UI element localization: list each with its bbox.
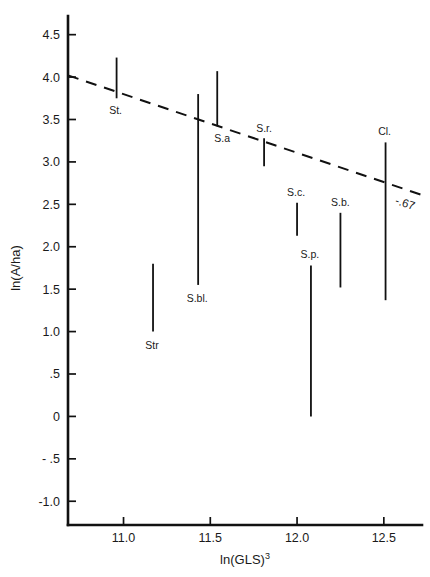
trendline-group: -.67 — [68, 75, 422, 212]
y-tick-label: 3.5 — [43, 113, 60, 127]
data-point-label: S.bl. — [187, 292, 208, 304]
y-tick-label: 0 — [53, 410, 60, 424]
y-tick-label: 4.5 — [43, 28, 60, 42]
data-point-label: Cl. — [378, 125, 391, 137]
data-range-bars: St.StrS.bl.S.aS.r.S.c.S.p.S.b.Cl. — [109, 58, 391, 417]
y-tick-label: 3.0 — [43, 155, 60, 169]
x-axis-ticks: 11.011.512.012.5 — [112, 517, 396, 545]
trendline-slope-annotation: -.67 — [394, 194, 417, 212]
x-tick-label: 11.0 — [112, 531, 135, 545]
data-point-label: St. — [109, 104, 122, 116]
data-point-label: S.p. — [301, 248, 320, 260]
y-tick-label: 1.5 — [43, 283, 60, 297]
data-point-label: S.c. — [287, 186, 305, 198]
x-tick-label: 11.5 — [199, 531, 222, 545]
y-tick-label: 2.0 — [43, 240, 60, 254]
y-axis-title: ln(A/ha) — [8, 245, 23, 291]
y-tick-label: - .5 — [42, 452, 60, 466]
x-axis-title-superscript: 3 — [265, 551, 270, 561]
y-tick-label: .5 — [50, 367, 60, 381]
y-tick-label: 2.5 — [43, 198, 60, 212]
data-point-label: S.r. — [256, 122, 272, 134]
trendline — [68, 75, 422, 195]
axes-group — [68, 16, 422, 525]
y-axis-ticks: 4.54.03.53.02.52.01.51.0.50- .5-1.0 — [38, 28, 76, 509]
x-axis-title: ln(GLS)3 — [220, 551, 270, 567]
chart-svg: 4.54.03.53.02.52.01.51.0.50- .5-1.0 11.0… — [0, 0, 430, 577]
data-point-label: S.a — [214, 132, 230, 144]
data-point-label: S.b. — [331, 196, 350, 208]
y-tick-label: 1.0 — [43, 325, 60, 339]
data-point-label: Str — [145, 339, 159, 351]
x-tick-label: 12.5 — [372, 531, 396, 545]
y-tick-label: -1.0 — [38, 495, 60, 509]
chart-root: 4.54.03.53.02.52.01.51.0.50- .5-1.0 11.0… — [0, 0, 430, 577]
x-tick-label: 12.0 — [285, 531, 309, 545]
y-tick-label: 4.0 — [43, 71, 60, 85]
